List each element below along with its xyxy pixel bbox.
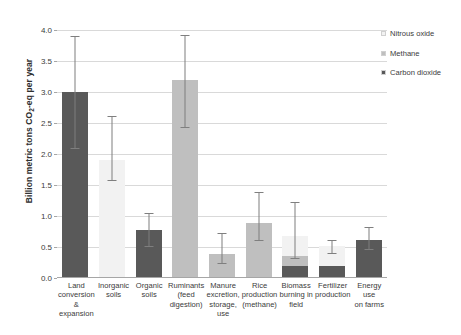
error-bar-cap-upper: [328, 240, 337, 241]
legend-item[interactable]: Nitrous oxide: [381, 29, 459, 39]
error-bar-line: [332, 240, 333, 254]
y-axis-tick-label: 4.0: [41, 26, 52, 35]
x-axis-line: [57, 277, 387, 278]
y-axis-tick-label: 1.5: [41, 181, 52, 190]
bar-slot[interactable]: [204, 30, 241, 278]
bar-slot[interactable]: [277, 30, 314, 278]
bar-slot[interactable]: [314, 30, 351, 278]
legend: Nitrous oxideMethaneCarbon dioxide: [381, 29, 459, 88]
x-axis-label: Rice production (methane): [241, 281, 278, 319]
y-axis-tick-label: 0.5: [41, 243, 52, 252]
legend-swatch-icon: [381, 70, 386, 75]
legend-label: Nitrous oxide: [390, 29, 434, 39]
x-axis-labels-group: Land conversion & expansionInorganic soi…: [57, 281, 387, 319]
error-bar-line: [112, 116, 113, 180]
x-axis-label: Inorganic soils: [96, 281, 132, 319]
bar-slot[interactable]: [130, 30, 167, 278]
error-bar-line: [185, 35, 186, 127]
legend-item[interactable]: Methane: [381, 49, 459, 59]
y-axis-title-main: Billion metric tons CO: [24, 112, 34, 203]
bar-slot[interactable]: [94, 30, 131, 278]
legend-label: Carbon dioxide: [390, 68, 441, 78]
x-axis-label: Ruminants (feed digestion): [167, 281, 205, 319]
y-axis-title-tail: -eq per year: [24, 59, 34, 108]
error-bar-cap-lower: [108, 180, 117, 181]
error-bar-line: [148, 213, 149, 246]
bar-slot[interactable]: [57, 30, 94, 278]
x-axis-label: Energy use on farms: [351, 281, 387, 319]
y-axis-tick-mark: [54, 278, 57, 279]
error-bar-line: [368, 227, 369, 249]
y-axis-tick-label: 2.5: [41, 119, 52, 128]
y-axis-tick-label: 0.0: [41, 274, 52, 283]
bars-group: [57, 30, 387, 278]
error-bar-cap-upper: [181, 35, 190, 36]
error-bar-cap-upper: [364, 227, 373, 228]
y-axis-tick-label: 3.5: [41, 57, 52, 66]
x-axis-label: Organic soils: [131, 281, 167, 319]
error-bar-cap-upper: [254, 192, 263, 193]
x-axis-label: Land conversion & expansion: [57, 281, 96, 319]
error-bar-cap-lower: [218, 263, 227, 264]
legend-label: Methane: [390, 49, 420, 59]
chart-container: Billion metric tons CO2-eq per year 0.00…: [0, 0, 461, 335]
y-axis-tick-label: 2.0: [41, 150, 52, 159]
error-bar-cap-lower: [328, 253, 337, 254]
error-bar-cap-upper: [71, 36, 80, 37]
legend-item[interactable]: Carbon dioxide: [381, 68, 459, 78]
bar-slot[interactable]: [167, 30, 204, 278]
x-axis-label: Manure excretion, storage, use: [205, 281, 241, 319]
error-bar-cap-lower: [181, 127, 190, 128]
error-bar-cap-upper: [144, 213, 153, 214]
error-bar-cap-upper: [218, 233, 227, 234]
error-bar-line: [295, 202, 296, 258]
plot-area: 0.00.51.01.52.02.53.03.54.0: [57, 30, 387, 278]
x-axis-label: Fertilizer production: [314, 281, 351, 319]
error-bar-line: [75, 36, 76, 148]
error-bar-cap-lower: [254, 240, 263, 241]
error-bar-cap-lower: [364, 249, 373, 250]
y-axis-tick-label: 1.0: [41, 212, 52, 221]
error-bar-line: [258, 192, 259, 239]
x-axis-label: Biomass burning in field: [278, 281, 314, 319]
legend-swatch-icon: [381, 51, 386, 56]
error-bar-cap-lower: [71, 148, 80, 149]
y-axis-tick-label: 3.0: [41, 88, 52, 97]
error-bar-cap-lower: [291, 258, 300, 259]
error-bar-cap-lower: [144, 246, 153, 247]
error-bar-cap-upper: [291, 202, 300, 203]
error-bar-cap-upper: [108, 116, 117, 117]
bar-slot[interactable]: [240, 30, 277, 278]
y-axis-title-subscript: 2: [28, 108, 35, 112]
legend-swatch-icon: [381, 31, 386, 36]
error-bar-line: [222, 233, 223, 263]
y-axis-title: Billion metric tons CO2-eq per year: [24, 6, 34, 256]
